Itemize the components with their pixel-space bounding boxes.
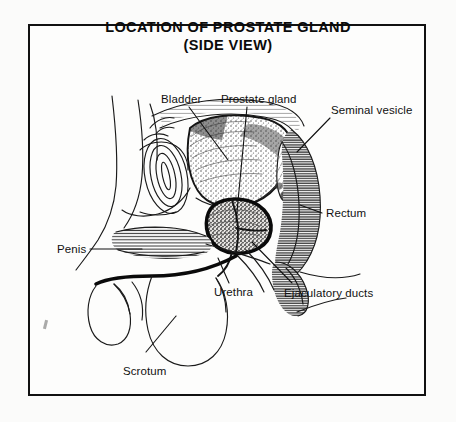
label-ejaculatory-ducts: Ejaculatory ducts [284,287,373,299]
label-bladder: Bladder [161,93,201,105]
anatomy-diagram: Bladder Prostate gland Seminal vesicle R… [0,0,456,422]
label-penis: Penis [57,243,86,255]
leader-scrotum [146,316,176,352]
label-rectum: Rectum [326,207,366,219]
pubic-bone [138,134,195,217]
penis-structure [88,256,236,345]
leader-seminal [297,118,330,152]
illustration-page: LOCATION OF PROSTATE GLAND (SIDE VIEW) [0,0,456,422]
label-urethra: Urethra [214,286,254,298]
label-scrotum: Scrotum [123,365,167,377]
label-prostate-gland: Prostate gland [221,93,297,105]
label-seminal-vesicle: Seminal vesicle [331,104,412,116]
